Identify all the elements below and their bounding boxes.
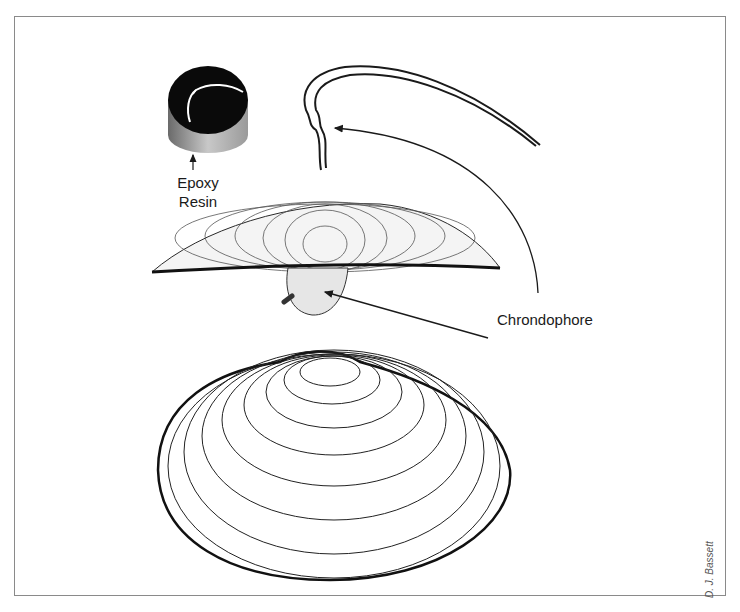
illustration (0, 0, 740, 612)
shell-exterior-valve (158, 350, 510, 580)
shell-side-view (152, 202, 500, 315)
chrondophore-arrow-lower (325, 292, 488, 338)
shell-section-outline (305, 66, 540, 170)
epoxy-resin-label: Epoxy Resin (170, 173, 226, 211)
artist-credit: D. J. Bassett (704, 541, 715, 598)
epoxy-label-line1: Epoxy (170, 173, 226, 192)
epoxy-resin-cylinder (168, 66, 248, 153)
epoxy-label-line2: Resin (170, 192, 226, 211)
chrondophore-label: Chrondophore (497, 311, 593, 328)
